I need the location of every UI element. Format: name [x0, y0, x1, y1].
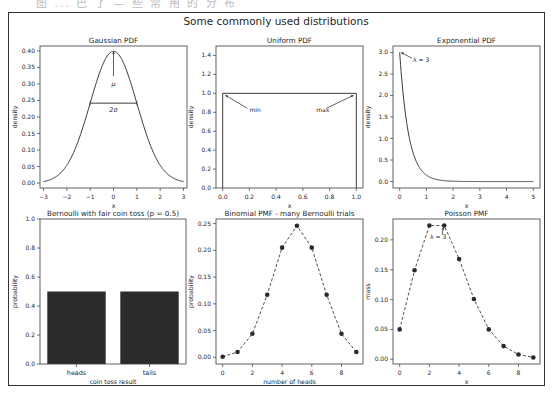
y-tick-label: 0.10 [22, 146, 36, 153]
x-tick-label: 0 [398, 193, 402, 200]
x-axis-label: x [288, 202, 292, 209]
data-point [220, 354, 225, 359]
data-line [400, 52, 534, 181]
axes-frame [216, 219, 363, 364]
y-tick-label: 0.05 [198, 327, 212, 334]
data-point [472, 297, 477, 302]
axes-frame [216, 46, 363, 188]
x-tick-label: 2 [427, 369, 431, 376]
y-tick-label: 0.40 [22, 47, 36, 54]
x-axis-label: coin toss result [90, 378, 137, 385]
data-point [309, 245, 314, 250]
x-tick-label: 2 [158, 193, 162, 200]
data-point [324, 292, 329, 297]
x-axis-label: number of heads [263, 378, 316, 385]
y-tick-label: 3.0 [378, 48, 388, 55]
y-axis-label: density [187, 105, 195, 128]
subplot-title: Exponential PDF [437, 36, 496, 45]
annotation-arrow [225, 95, 247, 108]
y-tick-label: 0.2 [25, 331, 35, 338]
y-tick-label: 0.20 [22, 113, 36, 120]
figure-canvas: Some commonly used distributions Gaussia… [0, 0, 554, 394]
subplot-title: Uniform PDF [267, 36, 312, 45]
subplot-uniform: Uniform PDF0.00.20.40.60.81.00.00.20.40.… [187, 36, 363, 209]
axes-frame [393, 219, 540, 364]
x-tick-label: 3 [478, 193, 482, 200]
data-point [235, 350, 240, 355]
y-tick-label: 0.20 [198, 246, 212, 253]
bar-heads [47, 292, 105, 365]
bar-tails [120, 292, 178, 365]
x-tick-label: 8 [340, 369, 344, 376]
subplot-gaussian: Gaussian PDF−3−2−101230.000.050.100.150.… [11, 36, 187, 209]
y-tick-label: 0.0 [201, 184, 211, 191]
x-tick-label: 4 [505, 193, 509, 200]
y-tick-label: 0.10 [198, 300, 212, 307]
data-point [354, 350, 359, 355]
y-axis-label: mass [364, 283, 371, 299]
x-tick-label: 0.4 [271, 193, 281, 200]
annotation-label: max [316, 106, 330, 113]
x-tick-label: tails [143, 369, 157, 377]
y-tick-label: 0.00 [375, 355, 389, 362]
x-tick-label: 4 [457, 369, 461, 376]
x-tick-label: 1.0 [352, 193, 362, 200]
annotation-label: 2σ [109, 106, 118, 114]
subplot-bernoulli: Bernoulli with fair coin toss (p = 0.5)h… [11, 209, 186, 385]
y-tick-label: 0.35 [22, 63, 36, 70]
subplot-title: Binomial PMF - many Bernoulli trials [225, 209, 355, 218]
x-tick-label: 6 [310, 369, 314, 376]
y-tick-label: 1.0 [201, 89, 211, 96]
y-tick-label: 1.5 [378, 113, 388, 120]
y-tick-label: 0.15 [22, 130, 36, 137]
y-tick-label: 0.6 [201, 127, 211, 134]
data-point [531, 355, 536, 360]
x-tick-label: 1 [424, 193, 428, 200]
y-tick-label: 1.4 [201, 51, 211, 58]
data-point [250, 331, 255, 336]
data-point [516, 352, 521, 357]
data-point [397, 327, 402, 332]
y-tick-label: 0.20 [375, 236, 389, 243]
y-axis-label: density [11, 105, 19, 128]
data-point [442, 223, 447, 228]
data-point [295, 223, 300, 228]
y-axis-label: density [364, 105, 372, 128]
data-point [265, 292, 270, 297]
y-tick-label: 0.10 [375, 296, 389, 303]
annotation-label: λ = 3 [430, 233, 446, 240]
x-tick-label: 0.6 [298, 193, 308, 200]
annotation-label: λ = 3 [413, 56, 429, 63]
x-tick-label: 0 [221, 369, 225, 376]
data-point [427, 223, 432, 228]
x-tick-label: 3 [182, 193, 186, 200]
y-axis-label: probability [11, 275, 19, 308]
y-tick-label: 0.15 [198, 273, 212, 280]
y-tick-label: 1.2 [201, 70, 211, 77]
y-tick-label: 2.5 [378, 70, 388, 77]
data-point [412, 268, 417, 273]
x-axis-label: x [465, 202, 469, 209]
y-tick-label: 0.4 [201, 146, 211, 153]
data-line [223, 226, 357, 357]
y-tick-label: 0.25 [198, 220, 212, 227]
x-tick-label: −1 [86, 193, 95, 200]
x-tick-label: 0.8 [325, 193, 335, 200]
x-axis-label: x [465, 378, 469, 385]
x-tick-label: 5 [531, 193, 535, 200]
x-tick-label: 6 [487, 369, 491, 376]
annotation-arrow [326, 95, 353, 108]
x-tick-label: 0 [112, 193, 116, 200]
y-tick-label: 1.0 [378, 135, 388, 142]
y-tick-label: 1.0 [25, 215, 35, 222]
y-tick-label: 0.15 [375, 266, 389, 273]
y-tick-label: 0.0 [25, 360, 35, 367]
y-tick-label: 0.5 [378, 156, 388, 163]
x-tick-label: heads [67, 369, 87, 377]
x-tick-label: 4 [280, 369, 284, 376]
y-tick-label: 0.25 [22, 96, 36, 103]
x-tick-label: 0.2 [245, 193, 255, 200]
x-tick-label: 2 [451, 193, 455, 200]
subplot-title: Gaussian PDF [89, 36, 138, 45]
x-tick-label: 0.0 [218, 193, 228, 200]
